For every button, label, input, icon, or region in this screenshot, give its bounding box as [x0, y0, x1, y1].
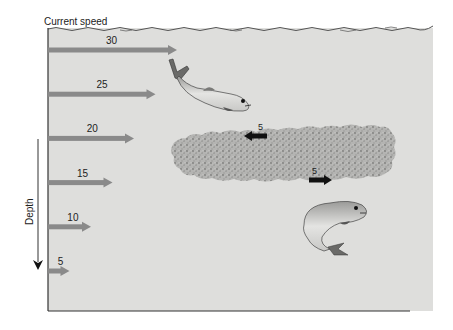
current-arrow-shaft	[48, 136, 126, 141]
title-current-speed: Current speed	[44, 16, 107, 27]
plankton-speed-label: 5	[258, 122, 263, 132]
current-speed-label: 10	[67, 212, 79, 223]
current-speed-diagram: Current speed Depth 30252015105 55	[0, 0, 453, 330]
plankton-speed-label: 5	[312, 166, 317, 176]
current-arrow-shaft	[48, 224, 83, 229]
current-speed-label: 20	[87, 123, 99, 134]
depth-label: Depth	[24, 198, 35, 225]
fish-upper-eye	[241, 99, 245, 103]
current-speed-label: 5	[58, 256, 64, 267]
current-speed-label: 25	[96, 79, 108, 90]
fish-lower-eye	[354, 206, 358, 210]
current-arrow-shaft	[48, 269, 62, 274]
depth-axis: Depth	[24, 139, 43, 270]
current-speed-label: 15	[77, 168, 89, 179]
current-arrow-shaft	[48, 92, 148, 97]
current-arrow-shaft	[48, 180, 105, 185]
current-arrow-shaft	[48, 48, 169, 53]
current-speed-label: 30	[106, 35, 118, 46]
